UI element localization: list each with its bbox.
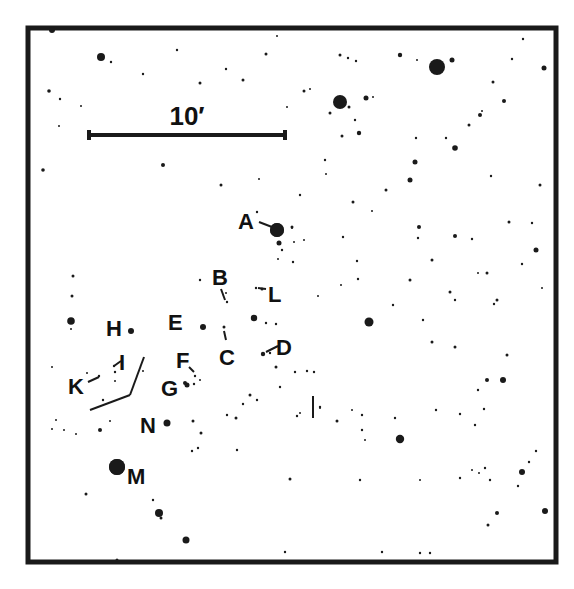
star — [299, 194, 301, 196]
star — [381, 551, 383, 553]
star — [477, 272, 479, 274]
star — [191, 450, 193, 452]
star — [110, 61, 112, 63]
labeled-star-g — [185, 383, 190, 388]
star — [292, 261, 294, 263]
star — [277, 241, 282, 246]
labeled-star-m — [109, 459, 125, 475]
star — [242, 79, 245, 82]
star — [340, 284, 342, 286]
star — [220, 184, 223, 187]
star — [289, 478, 292, 481]
star — [51, 428, 53, 430]
star — [142, 73, 144, 75]
star — [489, 479, 491, 481]
star — [477, 389, 479, 391]
star — [429, 59, 445, 75]
star — [70, 328, 72, 330]
star — [47, 89, 51, 93]
star — [71, 295, 74, 298]
labeled-star-n — [164, 420, 171, 427]
labeled-star-f — [194, 375, 196, 377]
star — [160, 517, 163, 520]
star — [419, 479, 421, 481]
star — [429, 552, 431, 554]
star — [541, 287, 543, 289]
star — [481, 110, 483, 112]
star — [357, 131, 361, 135]
star — [445, 137, 447, 139]
finder-chart: ABCDEFGHIKLMN 10′ — [0, 0, 574, 589]
star — [500, 377, 506, 383]
star-label-c: C — [219, 345, 235, 370]
star — [468, 124, 471, 127]
star — [398, 53, 402, 57]
star — [329, 112, 332, 115]
star — [324, 159, 326, 161]
star — [80, 105, 82, 107]
star — [522, 38, 524, 40]
star — [276, 35, 278, 37]
star — [364, 439, 366, 441]
star — [419, 552, 421, 554]
star — [417, 225, 421, 229]
star — [296, 415, 298, 417]
star — [97, 53, 105, 61]
star — [496, 299, 499, 302]
star-label-k: K — [68, 374, 84, 399]
star — [542, 66, 547, 71]
star — [155, 509, 163, 517]
star — [85, 493, 88, 496]
star — [459, 413, 461, 415]
star — [365, 318, 374, 327]
star — [408, 178, 413, 183]
star — [486, 272, 489, 275]
star — [392, 304, 394, 306]
star-label-g: G — [161, 376, 178, 401]
star-label-h: H — [106, 316, 122, 341]
star — [59, 98, 61, 100]
star — [192, 420, 195, 423]
star — [176, 49, 178, 51]
star — [55, 419, 57, 421]
star — [372, 96, 374, 98]
star — [484, 467, 486, 469]
star — [199, 82, 202, 85]
labeled-star-e — [200, 324, 206, 330]
star — [356, 260, 358, 262]
star — [474, 424, 476, 426]
star — [493, 303, 495, 305]
star — [450, 58, 455, 63]
star — [385, 189, 388, 192]
star — [361, 414, 363, 416]
star — [291, 227, 293, 229]
labeled-star-l — [255, 287, 257, 289]
star — [339, 54, 342, 57]
star — [333, 95, 347, 109]
star — [286, 106, 288, 108]
star — [299, 412, 301, 414]
star — [284, 551, 286, 553]
star — [519, 469, 525, 475]
star — [506, 354, 509, 357]
background — [0, 0, 574, 589]
star — [359, 479, 361, 481]
star — [492, 81, 495, 84]
star — [161, 163, 165, 167]
star — [265, 322, 267, 324]
star — [242, 403, 244, 405]
leader-line-l — [258, 288, 266, 289]
labeled-star-d — [261, 352, 265, 356]
star — [478, 113, 482, 117]
star — [396, 435, 404, 443]
star — [417, 237, 419, 239]
star — [183, 537, 190, 544]
star — [279, 386, 281, 388]
star — [199, 279, 201, 281]
star — [471, 238, 473, 240]
star — [193, 383, 195, 385]
star — [364, 96, 369, 101]
star — [63, 429, 65, 431]
star — [483, 408, 485, 410]
star — [431, 341, 434, 344]
